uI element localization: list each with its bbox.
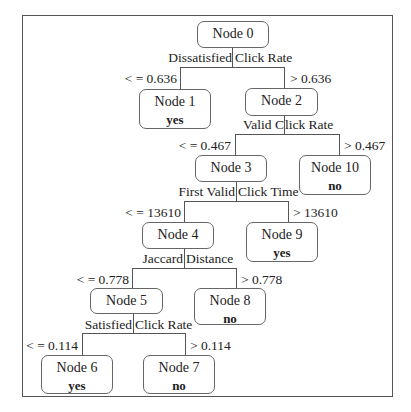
branch-label-left: < = 0.467 xyxy=(179,139,231,153)
node-class: yes xyxy=(42,375,112,393)
node-class: no xyxy=(300,175,370,193)
connector xyxy=(180,67,181,89)
split-feature: Satisfied xyxy=(85,318,132,332)
connector xyxy=(284,67,285,88)
tree-node-8: Node 8 no xyxy=(194,288,266,325)
connector xyxy=(235,134,340,135)
split-feature: Distance xyxy=(186,252,233,266)
node-title: Node 4 xyxy=(143,223,213,242)
node-title: Node 1 xyxy=(140,90,210,109)
tree-node-7: Node 7 no xyxy=(143,355,215,394)
split-feature: lick Rate xyxy=(285,118,333,132)
tree-node-1: Node 1 yes xyxy=(139,89,211,129)
tree-node-0: Node 0 xyxy=(197,21,269,48)
branch-label-right: > 0.114 xyxy=(190,339,231,353)
connector xyxy=(232,48,233,68)
branch-label-right: > 0.778 xyxy=(241,273,282,287)
branch-label-right: > 0.636 xyxy=(290,72,331,86)
connector xyxy=(288,201,289,222)
node-title: Node 2 xyxy=(246,89,317,108)
connector xyxy=(184,249,185,269)
connector xyxy=(184,201,289,202)
node-title: Node 7 xyxy=(144,356,214,375)
tree-node-10: Node 10 no xyxy=(299,155,371,195)
node-class: yes xyxy=(140,109,210,127)
tree-node-9: Node 9 yes xyxy=(246,222,318,262)
branch-label-left: < = 0.778 xyxy=(77,273,129,287)
connector xyxy=(132,268,133,288)
node-title: Node 5 xyxy=(91,289,162,308)
tree-node-5: Node 5 xyxy=(90,288,163,314)
connector xyxy=(236,268,237,288)
tree-node-6: Node 6 yes xyxy=(41,355,113,394)
branch-label-left: < = 0.114 xyxy=(26,339,78,353)
connector xyxy=(236,182,237,202)
connector xyxy=(235,134,236,155)
connector xyxy=(185,333,186,355)
node-title: Node 10 xyxy=(300,156,370,175)
node-class: no xyxy=(195,308,265,326)
connector xyxy=(133,314,134,334)
tree-node-2: Node 2 xyxy=(245,88,318,116)
node-title: Node 8 xyxy=(195,289,265,308)
connector xyxy=(180,67,285,68)
branch-label-right: > 0.467 xyxy=(344,139,385,153)
node-class: no xyxy=(144,375,214,393)
split-feature: Jaccard xyxy=(143,252,183,266)
split-feature: Click Rate xyxy=(135,318,192,332)
branch-label-right: > 13610 xyxy=(293,206,338,220)
split-feature: Click Rate xyxy=(235,51,292,65)
tree-node-3: Node 3 xyxy=(195,155,267,182)
node-title: Node 9 xyxy=(247,223,317,242)
branch-label-left: < = 13610 xyxy=(125,206,181,220)
tree-node-4: Node 4 xyxy=(142,222,214,249)
node-title: Node 3 xyxy=(196,156,266,175)
connector xyxy=(339,134,340,155)
connector xyxy=(184,201,185,222)
split-feature: Click Time xyxy=(238,185,298,199)
node-class: yes xyxy=(247,242,317,260)
branch-label-left: < = 0.636 xyxy=(125,72,177,86)
split-feature: First Valid xyxy=(179,185,235,199)
split-feature: Dissatisfied xyxy=(168,51,232,65)
node-title: Node 6 xyxy=(42,356,112,375)
node-title: Node 0 xyxy=(198,22,268,41)
connector xyxy=(132,268,237,269)
connector xyxy=(82,333,186,334)
split-feature: Valid C xyxy=(243,118,284,132)
connector xyxy=(82,333,83,355)
